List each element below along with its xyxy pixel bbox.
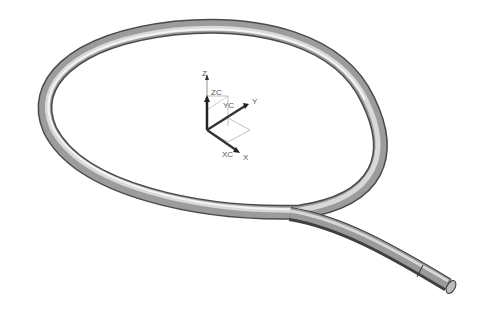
zc-axis-label: ZC <box>211 88 222 97</box>
tube-body[interactable] <box>45 26 380 212</box>
yc-axis-label: YC <box>223 101 234 110</box>
model-view[interactable]: Z ZC YC Y XC X <box>0 0 481 318</box>
xc-axis-label: XC <box>222 150 233 159</box>
graphics-viewport[interactable]: Z ZC YC Y XC X <box>0 0 481 318</box>
z-axis-label: Z <box>202 69 207 78</box>
y-axis-label: Y <box>252 97 258 106</box>
x-axis-label: X <box>243 153 249 162</box>
zc-axis-icon <box>204 95 210 130</box>
tube-tail[interactable] <box>290 211 458 295</box>
coordinate-triad: Z ZC YC Y XC X <box>202 69 258 162</box>
